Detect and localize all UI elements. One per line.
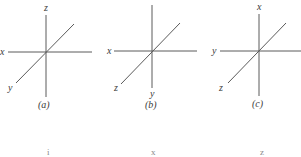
bottom-label-2: x — [151, 147, 156, 157]
panel-a-label-x: x — [0, 46, 5, 57]
panel-b-label-y: y — [149, 88, 155, 99]
panel-c-caption: (c) — [252, 98, 264, 110]
bottom-label-3: z — [260, 147, 264, 157]
panel-a-label-y: y — [7, 82, 13, 93]
panel-b-label-z: z — [113, 82, 118, 93]
panel-c-label-z: z — [218, 82, 223, 93]
panel-a-caption: (a) — [38, 99, 50, 111]
panel-a: z x y (a) — [0, 2, 92, 111]
panel-c-label-y: y — [211, 45, 217, 56]
panel-b: x z y (b) — [106, 5, 197, 111]
panel-b-diagonal-axis — [121, 23, 180, 84]
panel-c-diagonal-axis — [228, 23, 286, 83]
panel-c-label-x: x — [256, 1, 262, 12]
panel-b-label-x: x — [106, 45, 112, 56]
bottom-row-labels: i x z — [47, 147, 264, 157]
bottom-label-1: i — [47, 147, 50, 157]
panel-a-diagonal-axis — [16, 24, 74, 83]
panel-c: x y z (c) — [211, 1, 301, 110]
panel-b-caption: (b) — [145, 99, 157, 111]
panel-a-label-z: z — [43, 2, 48, 13]
coordinate-axes-figure: z x y (a) x z y (b) x y z (c) i x z — [0, 0, 301, 157]
